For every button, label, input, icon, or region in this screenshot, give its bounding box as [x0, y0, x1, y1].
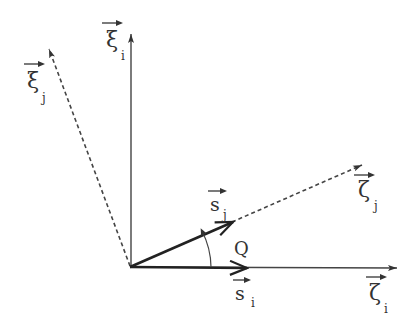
- zeta-j-label: ζ: [358, 179, 370, 201]
- zeta-i-label: ζ: [369, 282, 381, 304]
- s-i-subscript: i: [251, 297, 255, 309]
- xi-j-subscript: j: [42, 92, 46, 104]
- xi-j-label: ξ: [27, 70, 39, 92]
- s-j-vector: [130, 222, 233, 267]
- s-j-label: s: [210, 195, 220, 214]
- s-i-label: s: [235, 284, 245, 303]
- s-j-subscript: j: [223, 209, 227, 221]
- xi-i-subscript: i: [121, 50, 125, 62]
- xi-i-label: ξ: [106, 29, 118, 51]
- zeta-j-axis: [232, 165, 362, 222]
- zeta-i-subscript: i: [384, 303, 388, 315]
- zeta-j-subscript: j: [374, 200, 378, 212]
- angle-label: Q: [234, 240, 249, 258]
- xi-j-axis: [49, 49, 130, 266]
- vector-diagram: [0, 0, 418, 327]
- s-i-vector: [130, 267, 247, 268]
- angle-arc: [202, 231, 211, 267]
